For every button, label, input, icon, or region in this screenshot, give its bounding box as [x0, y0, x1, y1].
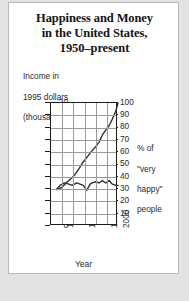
plot-area [50, 102, 117, 225]
x-axis-label: Year [50, 259, 117, 269]
y-axis-right-tick-label: 60 [120, 147, 129, 155]
y-axis-right-tick-label: 90 [120, 110, 129, 118]
y-axis-right-label: % of "very happy" people [137, 133, 163, 225]
y-axis-left-tick-mark [45, 225, 50, 226]
vertical-gridline [96, 103, 97, 224]
chart-title-line-1: Happiness and Money [9, 11, 180, 26]
y-axis-right-tick-label: 30 [120, 184, 129, 192]
y-axis-right-label-line-4: people [137, 204, 163, 214]
y-axis-right-label-line-3: happy" [137, 184, 163, 194]
y-axis-right-tick-label: 40 [120, 172, 129, 180]
chart-card: Happiness and Money in the United States… [8, 2, 179, 274]
chart-title-line-2: in the United States, [9, 26, 180, 41]
y-axis-right-tick-label: 80 [120, 122, 129, 130]
y-axis-right-label-line-2: "very [137, 164, 163, 174]
chart-title: Happiness and Money in the United States… [9, 11, 180, 56]
chart-page: Happiness and Money in the United States… [0, 0, 189, 301]
y-axis-right-label-line-1: % of [137, 143, 163, 153]
x-axis-tick-label: 2000 [121, 210, 131, 228]
chart-title-line-3: 1950–present [9, 41, 180, 56]
y-axis-right-tick-label: 70 [120, 135, 129, 143]
y-axis-left-label-line-1: Income in [23, 71, 68, 81]
vertical-gridline [73, 103, 74, 224]
y-axis-right-tick-label: 100 [120, 98, 134, 106]
vertical-gridline [107, 103, 108, 224]
y-axis-right-tick-label: 20 [120, 196, 129, 204]
vertical-gridline [62, 103, 63, 224]
vertical-gridline [85, 103, 86, 224]
y-axis-right-tick-label: 50 [120, 159, 129, 167]
